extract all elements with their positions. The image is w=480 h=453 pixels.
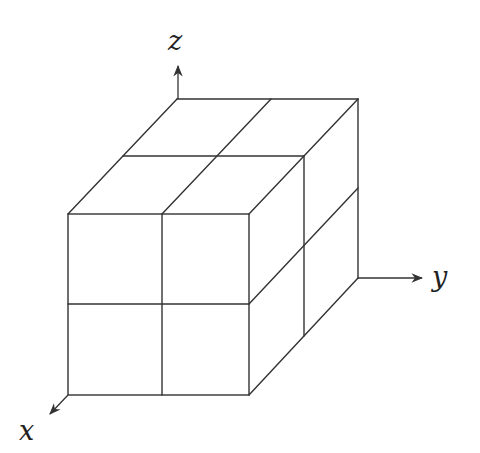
cube-diagram: z y x: [0, 0, 480, 453]
z-axis-label: z: [167, 25, 183, 56]
x-axis-arrow: [50, 395, 68, 414]
top-face: [68, 99, 358, 214]
right-face: [249, 99, 358, 395]
y-axis-label: y: [431, 261, 448, 292]
axes: [50, 66, 422, 414]
front-face: [68, 214, 249, 395]
x-axis-label: x: [19, 415, 34, 446]
